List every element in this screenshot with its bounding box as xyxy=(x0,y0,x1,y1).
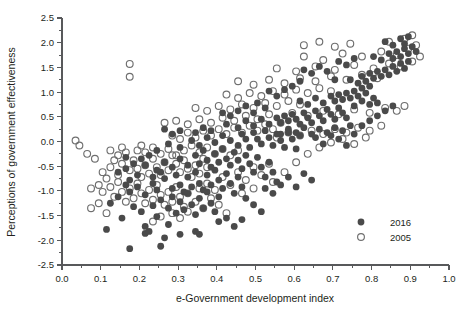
data-point-2005 xyxy=(235,78,242,85)
data-point-2005 xyxy=(103,210,110,217)
data-point-2016 xyxy=(293,129,300,136)
data-point-2016 xyxy=(188,137,195,144)
data-point-2016 xyxy=(192,169,199,176)
data-point-2016 xyxy=(362,78,369,85)
data-point-2016 xyxy=(331,116,338,123)
y-tick-label: 2.0 xyxy=(41,37,54,48)
data-point-2016 xyxy=(200,205,207,212)
data-point-2016 xyxy=(138,208,145,215)
data-point-2005 xyxy=(84,150,91,157)
data-point-2016 xyxy=(242,117,249,124)
data-point-2016 xyxy=(270,169,277,176)
data-point-2016 xyxy=(366,117,373,124)
data-point-2005 xyxy=(115,179,122,186)
y-tick-label: -1.0 xyxy=(38,185,54,196)
data-point-2016 xyxy=(231,149,238,156)
data-point-2016 xyxy=(316,63,323,70)
data-point-2016 xyxy=(204,172,211,179)
data-point-2016 xyxy=(219,132,226,139)
data-point-2016 xyxy=(250,109,257,116)
data-point-2016 xyxy=(258,164,265,171)
data-point-2016 xyxy=(324,68,331,75)
data-point-2016 xyxy=(208,200,215,207)
data-point-2016 xyxy=(107,200,114,207)
data-point-2016 xyxy=(157,196,164,203)
data-point-2005 xyxy=(362,134,369,141)
data-point-2016 xyxy=(200,124,207,131)
data-point-2016 xyxy=(246,144,253,151)
data-point-2016 xyxy=(165,141,172,148)
data-point-2016 xyxy=(250,129,257,136)
y-tick-label: 0.0 xyxy=(41,136,54,147)
data-point-2016 xyxy=(289,83,296,90)
data-point-2016 xyxy=(405,50,412,57)
data-point-2016 xyxy=(122,182,129,189)
data-point-2005 xyxy=(215,201,222,208)
data-point-2016 xyxy=(285,126,292,133)
data-point-2016 xyxy=(312,134,319,141)
y-tick-label: 0.5 xyxy=(41,111,54,122)
data-point-2016 xyxy=(331,76,338,83)
data-point-2005 xyxy=(246,90,253,97)
data-point-2016 xyxy=(320,141,327,148)
data-point-2016 xyxy=(227,137,234,144)
data-point-2016 xyxy=(300,66,307,73)
data-point-2016 xyxy=(370,53,377,60)
data-point-2016 xyxy=(192,152,199,159)
data-point-2016 xyxy=(181,188,188,195)
y-tick-label: -2.0 xyxy=(38,235,54,246)
data-point-2005 xyxy=(293,68,300,75)
data-point-2016 xyxy=(382,38,389,45)
data-point-2016 xyxy=(211,150,218,157)
data-point-2016 xyxy=(242,195,249,202)
data-point-2016 xyxy=(235,157,242,164)
data-point-2016 xyxy=(382,107,389,114)
data-point-2016 xyxy=(103,226,110,233)
data-point-2005 xyxy=(122,198,129,205)
data-point-2005 xyxy=(378,122,385,129)
data-point-2016 xyxy=(351,131,358,138)
data-point-2016 xyxy=(181,206,188,213)
data-point-2005 xyxy=(88,205,95,212)
data-point-2005 xyxy=(351,62,358,69)
data-point-2016 xyxy=(343,142,350,149)
data-point-2005 xyxy=(359,53,366,60)
data-point-2016 xyxy=(169,131,176,138)
data-point-2016 xyxy=(169,193,176,200)
data-point-2005 xyxy=(347,40,354,47)
data-point-2016 xyxy=(386,71,393,78)
data-point-2016 xyxy=(335,136,342,143)
data-point-2005 xyxy=(173,117,180,124)
data-point-2005 xyxy=(103,175,110,182)
data-point-2005 xyxy=(227,106,234,113)
data-point-2016 xyxy=(150,180,157,187)
data-point-2016 xyxy=(153,187,160,194)
data-point-2016 xyxy=(362,90,369,97)
data-point-2005 xyxy=(99,188,106,195)
data-point-2016 xyxy=(188,184,195,191)
data-point-2005 xyxy=(142,200,149,207)
data-point-2016 xyxy=(258,208,265,215)
data-point-2016 xyxy=(254,100,261,107)
data-point-2016 xyxy=(351,103,358,110)
data-point-2016 xyxy=(405,58,412,65)
x-tick-label: 0.4 xyxy=(210,273,223,284)
data-point-2016 xyxy=(262,105,269,112)
x-tick-label: 1.0 xyxy=(442,273,455,284)
data-point-2016 xyxy=(258,141,265,148)
data-point-2005 xyxy=(184,129,191,136)
data-point-2016 xyxy=(208,182,215,189)
data-point-2005 xyxy=(130,195,137,202)
data-point-2016 xyxy=(126,188,133,195)
data-point-2005 xyxy=(107,147,114,154)
data-point-2016 xyxy=(122,154,129,161)
data-point-2016 xyxy=(150,202,157,209)
data-point-2005 xyxy=(266,111,273,118)
data-point-2016 xyxy=(215,177,222,184)
data-point-2016 xyxy=(215,159,222,166)
data-point-2016 xyxy=(300,124,307,131)
data-point-2016 xyxy=(177,127,184,134)
data-point-2005 xyxy=(250,81,257,88)
data-point-2005 xyxy=(126,61,133,68)
data-point-2016 xyxy=(169,164,176,171)
